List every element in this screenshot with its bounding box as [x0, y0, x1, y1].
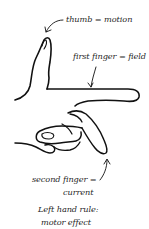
second-finger-label-current: current: [63, 188, 93, 196]
second-finger-label: second finger =: [32, 175, 97, 183]
first-finger-arrow-icon: [88, 67, 96, 87]
caption-line-1: Left hand rule:: [38, 205, 98, 213]
caption-line-2: motor effect: [41, 218, 91, 226]
thumb-label: thumb = motion: [66, 15, 132, 23]
thumb-arrow-icon: [45, 20, 63, 32]
thumb-drawing: [15, 38, 51, 100]
second-finger-drawing: [15, 111, 107, 154]
first-finger-drawing: [47, 89, 139, 106]
first-finger-label: first finger = field: [73, 52, 146, 60]
second-finger-arrow-icon: [100, 159, 110, 180]
left-hand-rule-diagram: thumb = motion first finger = field seco…: [0, 0, 149, 229]
